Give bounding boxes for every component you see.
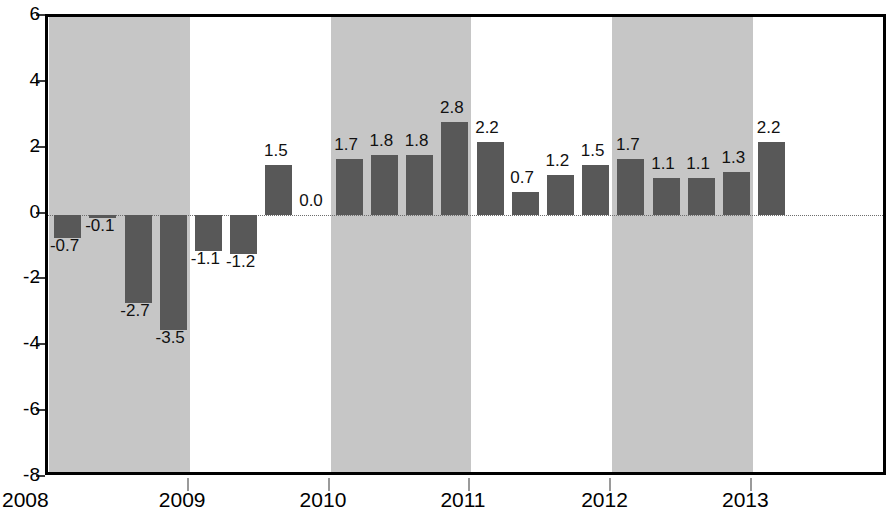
x-tick-label: 2012	[581, 488, 628, 512]
x-tick-label: 2010	[300, 488, 347, 512]
x-tick-label: 2011	[440, 488, 485, 512]
bar-chart: -0.7-0.1-2.7-3.5-1.1-1.21.50.01.71.81.82…	[0, 0, 896, 522]
x-axis: 200820092010201120122013	[0, 0, 896, 522]
x-tick-label: 2009	[159, 488, 206, 512]
x-tick-label: 2013	[722, 488, 769, 512]
x-tick-label: 2008	[2, 488, 49, 512]
